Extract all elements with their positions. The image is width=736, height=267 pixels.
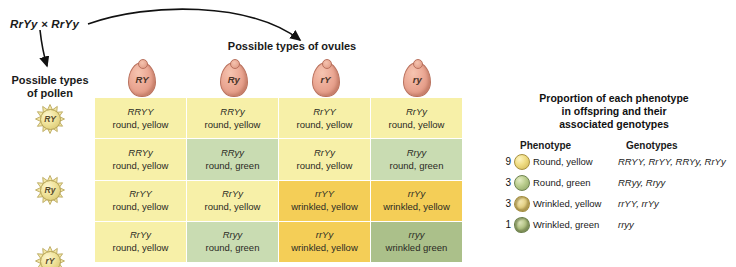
ovule-icon: Ry (220, 62, 248, 97)
pollen-title: Possible types of pollen (4, 74, 96, 100)
punnett-cell: RRYyround, yellow (95, 139, 186, 179)
cell-phenotype: wrinkled, yellow (383, 201, 450, 213)
ovule-gamete: Ry (220, 62, 248, 97)
pea-icon (511, 175, 533, 191)
legend-genotypes: RRYY, RrYY, RRYy, RrYy (618, 156, 730, 167)
legend-count: 3 (498, 198, 511, 209)
cell-phenotype: round, yellow (389, 119, 445, 131)
arrow-to-ovules (88, 9, 300, 40)
cell-phenotype: round, green (206, 242, 260, 254)
cell-genotype: Rryy (223, 229, 243, 241)
pollen-icon: rY (35, 246, 65, 267)
cell-phenotype: round, green (206, 160, 260, 172)
cell-phenotype: round, green (390, 160, 444, 172)
punnett-cell: RRYYround, yellow (95, 98, 186, 138)
cell-genotype: RRYy (220, 106, 244, 118)
cell-phenotype: wrinkled, yellow (291, 201, 358, 213)
legend-phenotype: Wrinkled, green (533, 219, 618, 230)
pea-shape (514, 175, 530, 191)
cell-phenotype: round, yellow (297, 160, 353, 172)
cell-genotype: RrYy (130, 229, 151, 241)
cell-phenotype: round, yellow (297, 119, 353, 131)
ovule-gamete: RY (128, 62, 156, 97)
ovule-gamete: ry (403, 62, 431, 97)
pea-icon (511, 196, 533, 212)
pea-icon (511, 154, 533, 170)
punnett-cell: RrYyround, yellow (95, 222, 186, 262)
punnett-cell: rrYywrinkled, yellow (279, 222, 370, 262)
cell-phenotype: round, yellow (205, 119, 261, 131)
legend-title-line2: in offspring and their (562, 105, 667, 117)
legend-genotypes: RRyy, Rryy (618, 177, 730, 188)
cell-genotype: rrYY (315, 188, 334, 200)
ovule-icon: ry (403, 62, 431, 97)
cell-genotype: RrYy (406, 106, 427, 118)
pea-shape (514, 154, 530, 170)
ovules-title: Possible types of ovules (192, 40, 392, 52)
cell-genotype: RrYy (222, 188, 243, 200)
legend-count: 3 (498, 177, 511, 188)
cell-genotype: RRYy (128, 147, 152, 159)
cell-phenotype: wrinkled green (386, 242, 448, 254)
pea-shape (514, 217, 530, 233)
punnett-cell: RrYYround, yellow (279, 98, 370, 138)
pollen-label: rY (46, 256, 55, 266)
punnett-cell: Rryyround, green (371, 139, 462, 179)
cell-genotype: rrYy (408, 188, 425, 200)
legend-phenotype: Round, yellow (533, 156, 618, 167)
punnett-cell: RRyyround, green (187, 139, 278, 179)
legend-header-phenotype: Phenotype (498, 140, 626, 151)
pollen-icon: Ry (35, 175, 65, 205)
cell-phenotype: round, yellow (205, 201, 261, 213)
legend-rows: 9Round, yellowRRYY, RrYY, RRYy, RrYy3Rou… (498, 151, 730, 235)
arrow-to-pollen (40, 30, 47, 66)
legend-phenotype: Wrinkled, yellow (533, 198, 618, 209)
ovule-row: RYRyrYry (95, 58, 462, 94)
legend-count: 9 (498, 156, 511, 167)
legend-row: 3Wrinkled, yellowrrYY, rrYy (498, 193, 730, 214)
punnett-cell: rryywrinkled green (371, 222, 462, 262)
punnett-cell: rrYywrinkled, yellow (371, 181, 462, 221)
cell-genotype: rrYy (316, 229, 333, 241)
legend-header-row: Phenotype Genotypes (498, 140, 730, 151)
cell-genotype: RRyy (221, 147, 244, 159)
punnett-square-figure: RrYy × RrYy Possible types of ovules Pos… (0, 0, 736, 267)
punnett-cell: RrYyround, yellow (279, 139, 370, 179)
cell-genotype: RrYy (314, 147, 335, 159)
ovule-label: ry (413, 74, 422, 85)
pollen-core: Ry (40, 180, 61, 201)
cell-phenotype: round, yellow (113, 201, 169, 213)
pollen-title-line1: Possible types (11, 74, 88, 86)
legend-title: Proportion of each phenotype in offsprin… (498, 92, 730, 131)
cross-label: RrYy × RrYy (10, 18, 79, 30)
punnett-cell: RRYyround, yellow (187, 98, 278, 138)
pollen-core: RY (40, 109, 61, 130)
punnett-cell: Rryyround, green (187, 222, 278, 262)
punnett-cell: RrYyround, yellow (187, 181, 278, 221)
cell-phenotype: wrinkled, yellow (291, 242, 358, 254)
legend-title-line1: Proportion of each phenotype (539, 92, 688, 104)
legend-header-genotypes: Genotypes (626, 140, 730, 151)
cell-genotype: Rryy (407, 147, 427, 159)
cell-genotype: RrYY (129, 188, 152, 200)
pollen-column: RYRyrYry (29, 98, 91, 262)
pollen-core: rY (40, 251, 61, 267)
pea-shape (514, 196, 530, 212)
legend-panel: Proportion of each phenotype in offsprin… (498, 92, 730, 235)
legend-row: 9Round, yellowRRYY, RrYY, RRYy, RrYy (498, 151, 730, 172)
ovule-icon: RY (128, 62, 156, 97)
punnett-cell: RrYyround, yellow (371, 98, 462, 138)
punnett-cell: RrYYround, yellow (95, 181, 186, 221)
legend-row: 3Round, greenRRyy, Rryy (498, 172, 730, 193)
legend-genotypes: rrYY, rrYy (618, 198, 730, 209)
pollen-label: RY (44, 114, 56, 124)
legend-phenotype: Round, green (533, 177, 618, 188)
legend-count: 1 (498, 219, 511, 230)
pollen-label: Ry (45, 185, 56, 195)
punnett-grid: RRYYround, yellowRRYyround, yellowRrYYro… (95, 98, 462, 262)
punnett-cell: rrYYwrinkled, yellow (279, 181, 370, 221)
legend-title-line3: associated genotypes (559, 118, 669, 130)
pollen-icon: RY (35, 104, 65, 134)
ovule-label: RY (135, 74, 148, 85)
ovule-gamete: rY (312, 62, 340, 97)
